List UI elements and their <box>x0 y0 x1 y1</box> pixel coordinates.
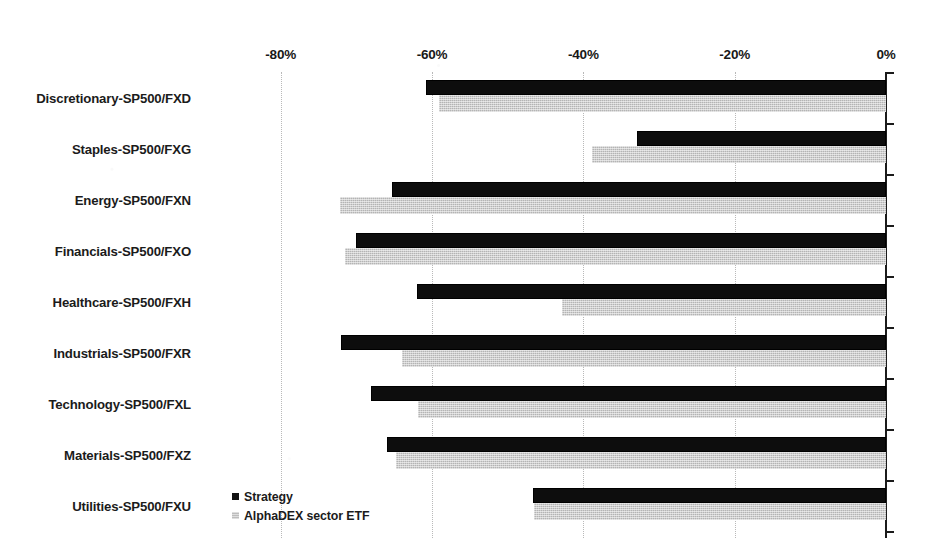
category-axis-label: Industrials-SP500/FXR <box>53 345 191 360</box>
bar-alphadex-etf <box>340 197 886 214</box>
chart-category-row: Staples-SP500/FXG <box>205 123 886 174</box>
category-axis-label: Utilities-SP500/FXU <box>72 498 191 513</box>
x-axis-tick-label: -20% <box>719 47 750 62</box>
chart-category-row: Financials-SP500/FXO <box>205 225 886 276</box>
category-axis-label: Staples-SP500/FXG <box>72 141 191 156</box>
bar-strategy <box>533 488 886 503</box>
category-axis-label: Energy-SP500/FXN <box>75 192 191 207</box>
chart-category-row: Industrials-SP500/FXR <box>205 327 886 378</box>
chart-category-row: Discretionary-SP500/FXD <box>205 72 886 123</box>
legend-item: Strategy <box>232 487 369 506</box>
bar-strategy <box>426 80 886 95</box>
bar-alphadex-etf <box>562 299 886 316</box>
category-axis-label: Financials-SP500/FXO <box>55 243 191 258</box>
category-axis-label: Healthcare-SP500/FXH <box>53 294 191 309</box>
category-axis-tick <box>887 378 894 380</box>
category-axis-tick <box>887 327 894 329</box>
legend-label: AlphaDEX sector ETF <box>244 509 369 523</box>
plot-area: Discretionary-SP500/FXDStaples-SP500/FXG… <box>205 72 886 538</box>
bar-alphadex-etf <box>592 146 886 163</box>
bar-strategy <box>371 386 886 401</box>
bar-alphadex-etf <box>396 452 886 469</box>
bar-alphadex-etf <box>439 95 886 112</box>
category-axis-tick <box>887 531 894 533</box>
bar-alphadex-etf <box>345 248 886 265</box>
x-axis-tick-label: -60% <box>417 47 448 62</box>
category-axis-tick <box>887 225 894 227</box>
bar-strategy <box>637 131 886 146</box>
chart-legend: StrategyAlphaDEX sector ETF <box>232 487 369 525</box>
category-axis-label: Materials-SP500/FXZ <box>64 447 191 462</box>
bar-strategy <box>356 233 886 248</box>
category-axis-tick <box>887 123 894 125</box>
bar-strategy <box>387 437 886 452</box>
x-axis-tick-label: 0% <box>876 47 895 62</box>
x-axis-tick-label: -40% <box>568 47 599 62</box>
chart-category-row: Materials-SP500/FXZ <box>205 429 886 480</box>
legend-swatch-etf-icon <box>232 512 239 519</box>
legend-label: Strategy <box>244 490 293 504</box>
category-axis-tick <box>887 72 894 74</box>
chart-category-row: Healthcare-SP500/FXH <box>205 276 886 327</box>
bar-strategy <box>341 335 886 350</box>
chart-category-row: Technology-SP500/FXL <box>205 378 886 429</box>
category-axis-label: Technology-SP500/FXL <box>48 396 191 411</box>
bar-alphadex-etf <box>402 350 886 367</box>
bar-strategy <box>392 182 886 197</box>
category-axis-label: Discretionary-SP500/FXD <box>36 90 191 105</box>
x-axis-tick-label: -80% <box>265 47 296 62</box>
bar-alphadex-etf <box>534 503 886 520</box>
bar-alphadex-etf <box>418 401 886 418</box>
category-axis-tick <box>887 480 894 482</box>
bar-strategy <box>417 284 886 299</box>
bar-chart: -80%-60%-40%-20%0% Discretionary-SP500/F… <box>0 0 933 546</box>
category-axis-tick <box>887 429 894 431</box>
category-axis-tick <box>887 276 894 278</box>
category-axis-tick <box>887 174 894 176</box>
legend-swatch-strategy-icon <box>232 493 239 500</box>
chart-category-row: Energy-SP500/FXN <box>205 174 886 225</box>
legend-item: AlphaDEX sector ETF <box>232 506 369 525</box>
